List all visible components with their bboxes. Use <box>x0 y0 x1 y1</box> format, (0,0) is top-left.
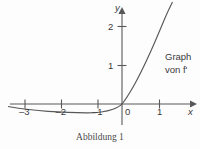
y-axis-label: y <box>115 3 120 13</box>
x-tick-label-neg3: –3 <box>19 107 30 117</box>
y-tick-label-1: 1 <box>108 61 113 71</box>
y-tick-label-2: 2 <box>108 22 113 32</box>
curve-f-prime <box>8 2 173 113</box>
figure-abbildung-1: –3 –2 –1 1 2 1 0 y x Graph von f' Abbild… <box>0 0 200 149</box>
figure-caption: Abbildung 1 <box>0 132 200 142</box>
x-axis-label: x <box>188 107 193 117</box>
origin-label: 0 <box>125 107 130 117</box>
curve-annotation-line-1: Graph <box>165 52 191 62</box>
x-tick-label-pos1: 1 <box>157 107 162 117</box>
x-tick-label-neg2: –2 <box>56 107 67 117</box>
x-tick-label-neg1: –1 <box>92 107 103 117</box>
curve-annotation-line-2: von f' <box>165 65 187 75</box>
